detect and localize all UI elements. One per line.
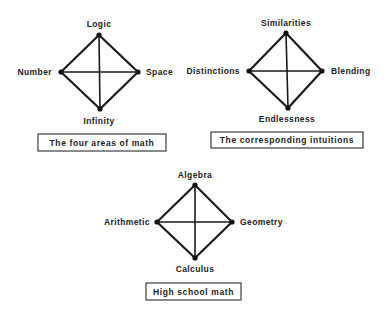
- label-number: Number: [17, 67, 52, 77]
- edge-bottom-left: [157, 222, 195, 258]
- node-top: [96, 32, 101, 37]
- label-distinctions: Distinctions: [187, 66, 240, 76]
- label-blending: Blending: [331, 66, 371, 76]
- edge-right-bottom: [288, 71, 322, 108]
- diagram-high-school: Algebra Arithmetic Geometry Calculus Hig…: [104, 170, 283, 300]
- node-top: [283, 30, 288, 35]
- edge-top-right: [195, 185, 232, 222]
- label-geometry: Geometry: [240, 217, 283, 227]
- edge-bottom-left: [249, 71, 288, 108]
- node-bottom: [285, 105, 290, 110]
- node-top: [192, 182, 197, 187]
- diagram-four-areas: Logic Number Space Infinity The four are…: [17, 19, 173, 151]
- node-left: [58, 69, 63, 74]
- caption-high-school: High school math: [153, 287, 234, 297]
- diagram-intuitions: Similarities Distinctions Blending Endle…: [187, 18, 371, 148]
- edge-left-top: [157, 185, 195, 222]
- diagram-canvas: Logic Number Space Infinity The four are…: [0, 0, 386, 311]
- edge-left-top: [249, 33, 286, 71]
- node-left: [154, 219, 159, 224]
- node-bottom: [192, 255, 197, 260]
- edge-left-top: [61, 35, 99, 72]
- label-infinity: Infinity: [83, 116, 114, 126]
- label-algebra: Algebra: [178, 170, 212, 180]
- node-left: [246, 68, 251, 73]
- caption-four-areas: The four areas of math: [50, 138, 155, 148]
- label-space: Space: [146, 67, 173, 77]
- label-calculus: Calculus: [176, 264, 215, 274]
- label-logic: Logic: [87, 19, 112, 29]
- node-right: [229, 219, 234, 224]
- caption-intuitions: The corresponding intuitions: [220, 135, 354, 145]
- edge-top-right: [286, 33, 322, 71]
- label-endlessness: Endlessness: [259, 114, 315, 124]
- edge-right-bottom: [195, 222, 232, 258]
- node-right: [135, 69, 140, 74]
- node-bottom: [97, 106, 102, 111]
- edge-right-bottom: [100, 72, 138, 109]
- edge-bottom-left: [61, 72, 100, 109]
- label-arithmetic: Arithmetic: [104, 217, 150, 227]
- edge-top-right: [99, 35, 138, 72]
- node-right: [319, 68, 324, 73]
- label-similarities: Similarities: [261, 18, 311, 28]
